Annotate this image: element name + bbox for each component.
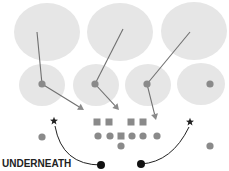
defender-dot: [206, 80, 213, 87]
offense-circle: [128, 132, 135, 139]
coverage-diagram: [0, 0, 229, 171]
lineman-square: [94, 119, 101, 126]
center-square: [118, 133, 125, 140]
star-icon: [186, 118, 194, 126]
deep-zone: [87, 3, 153, 61]
deep-zones: [14, 2, 227, 61]
star-icon: [50, 117, 58, 125]
offense-circle: [38, 133, 45, 140]
underneath-zone: [177, 63, 225, 105]
diagram-label: UNDERNEATH: [2, 158, 71, 169]
lineman-square: [128, 119, 135, 126]
defender-dot: [143, 80, 150, 87]
lineman-square: [106, 119, 113, 126]
deep-zone: [161, 2, 227, 60]
underneath-zones: [19, 63, 225, 106]
deep-zone: [14, 3, 80, 61]
blitz-path: [141, 127, 189, 164]
offensive-formation: [38, 119, 213, 150]
offense-circle: [139, 132, 146, 139]
arrowhead-icon: [151, 113, 158, 120]
offense-circle: [94, 132, 101, 139]
lineman-square: [140, 119, 147, 126]
offense-circle: [117, 142, 124, 149]
defender-dot: [91, 80, 98, 87]
offense-circle: [153, 132, 160, 139]
stars: [50, 117, 194, 126]
offense-circle: [106, 132, 113, 139]
blitzer-dot: [137, 160, 145, 168]
blitzer-dot: [97, 161, 105, 169]
defender-dot: [38, 80, 45, 87]
offense-circle: [206, 142, 213, 149]
